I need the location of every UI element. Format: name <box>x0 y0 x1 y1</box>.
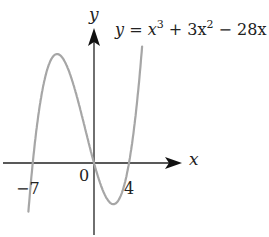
tick-label-0: 0 <box>79 168 89 184</box>
eq-equals: = <box>129 20 142 39</box>
eq-term1: x <box>148 20 157 39</box>
equation-label: y = x3 + 3x2 − 28x <box>115 22 266 38</box>
eq-exp1: 3 <box>157 18 164 31</box>
eq-plus: + <box>169 20 182 39</box>
y-axis-label: y <box>89 6 99 23</box>
eq-lhs: y <box>115 20 124 39</box>
eq-term3: 28x <box>237 20 266 39</box>
eq-minus: − <box>219 20 232 39</box>
tick-label-neg7: −7 <box>16 181 40 197</box>
eq-term2: 3x <box>187 20 206 39</box>
tick-label-4: 4 <box>124 181 134 197</box>
eq-exp2: 2 <box>206 18 213 31</box>
x-axis-label: x <box>189 151 199 168</box>
